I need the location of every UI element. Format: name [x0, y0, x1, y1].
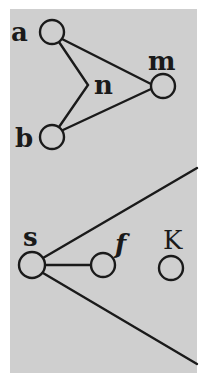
node-f	[91, 253, 115, 277]
ray-s-lower	[43, 273, 197, 364]
label-k: K	[163, 225, 183, 255]
label-a: a	[11, 17, 28, 47]
label-n: n	[94, 70, 113, 100]
node-m	[151, 74, 175, 98]
label-m: m	[148, 46, 176, 76]
edge-a-n-b	[59, 42, 88, 127]
node-b	[40, 125, 64, 149]
graph-diagram: a b m n s f K	[0, 0, 206, 383]
node-k	[159, 256, 183, 280]
label-f: f	[113, 229, 130, 259]
node-s	[19, 252, 45, 278]
label-b: b	[15, 123, 33, 153]
node-a	[40, 20, 64, 44]
label-s: s	[23, 222, 38, 252]
